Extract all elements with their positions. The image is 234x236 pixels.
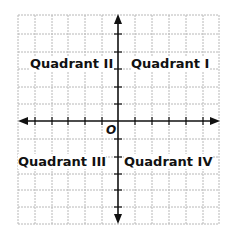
arrowheads [18, 14, 220, 224]
quadrant-iii-label: Quadrant III [18, 154, 106, 169]
arrow-left-icon [18, 117, 28, 125]
quadrant-i-label: Quadrant I [131, 56, 209, 71]
coordinate-plane [0, 0, 234, 236]
arrow-down-icon [114, 214, 122, 224]
quadrant-iv-label: Quadrant IV [124, 154, 212, 169]
quadrant-ii-label: Quadrant II [30, 56, 113, 71]
origin-label: O [106, 123, 116, 137]
